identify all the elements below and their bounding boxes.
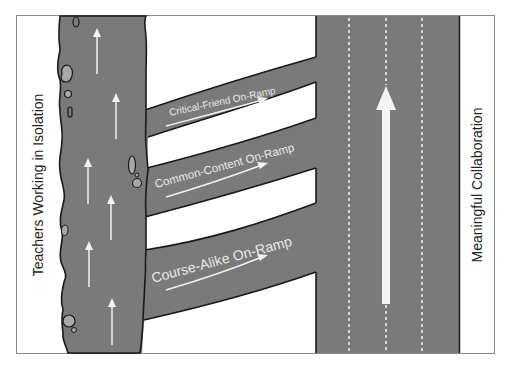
rock bbox=[135, 173, 139, 177]
rock bbox=[129, 156, 136, 174]
collaboration-highway bbox=[316, 16, 460, 353]
rock bbox=[63, 315, 75, 327]
left-label: Teachers Working in Isolation bbox=[30, 94, 46, 277]
rock bbox=[65, 91, 72, 98]
rock bbox=[73, 17, 79, 27]
rock bbox=[61, 225, 68, 235]
rock bbox=[133, 179, 142, 188]
rock bbox=[68, 107, 72, 117]
isolation-road bbox=[58, 16, 148, 353]
rock bbox=[72, 328, 77, 333]
rock bbox=[61, 65, 72, 82]
right-label: Meaningful Collaboration bbox=[469, 108, 485, 263]
on-ramp-diagram: Critical-Friend On-Ramp Common-Content O… bbox=[0, 0, 508, 368]
on-ramps: Critical-Friend On-Ramp Common-Content O… bbox=[140, 16, 318, 353]
